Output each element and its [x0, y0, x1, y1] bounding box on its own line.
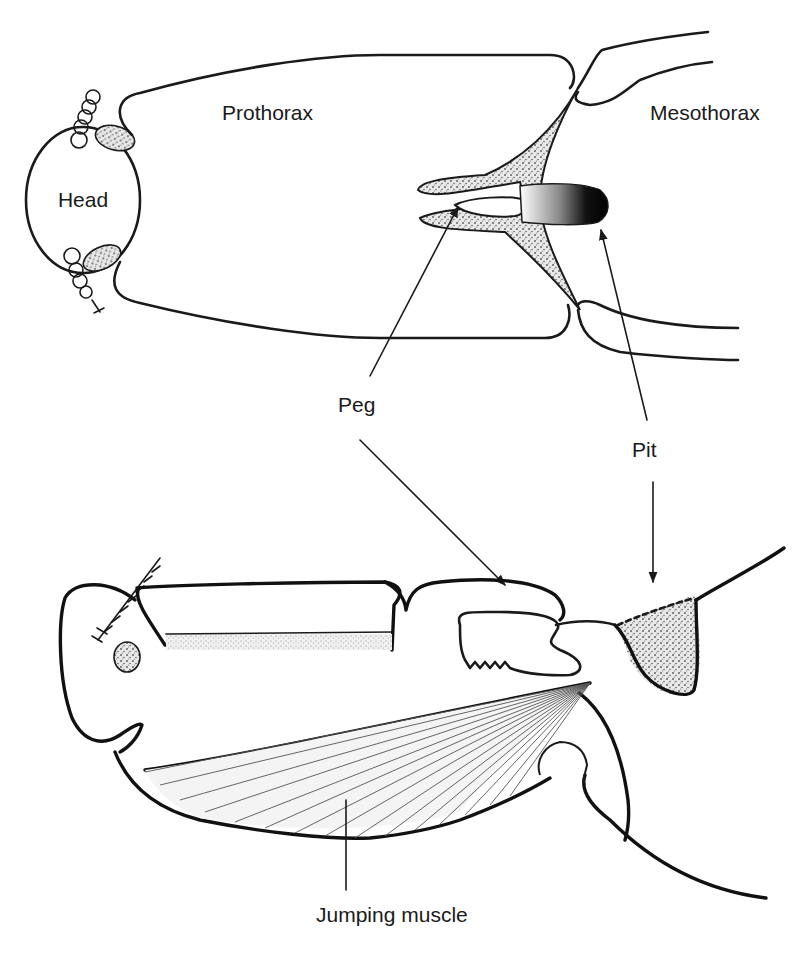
pit-top — [520, 184, 608, 225]
pit-arrow-top — [601, 230, 647, 420]
side-view: Jumping muscle — [60, 548, 784, 926]
label-jumping-muscle: Jumping muscle — [316, 903, 468, 926]
label-peg: Peg — [338, 393, 375, 416]
jumping-muscle — [145, 683, 590, 890]
callouts: Peg Pit — [338, 207, 657, 585]
antenna-side — [92, 558, 160, 642]
label-mesothorax: Mesothorax — [650, 101, 760, 124]
top-view: Head Prothorax Mesothorax — [26, 32, 760, 360]
peg-arrow-top — [370, 207, 458, 376]
peg-arrow-side — [360, 440, 505, 585]
antenna-top-upper — [71, 90, 100, 148]
label-pit: Pit — [632, 438, 657, 461]
beetle-jump-diagram: Head Prothorax Mesothorax P — [0, 0, 812, 956]
label-prothorax: Prothorax — [222, 101, 314, 124]
label-head: Head — [58, 188, 108, 211]
prothorax-side — [137, 580, 564, 650]
mesothorax-side — [556, 548, 784, 696]
peg-side — [459, 612, 580, 675]
